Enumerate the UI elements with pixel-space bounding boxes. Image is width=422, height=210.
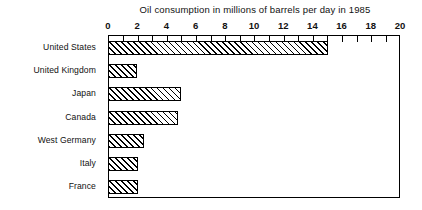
x-axis-tick-label: 0 xyxy=(105,20,110,31)
y-axis-category-label: United States xyxy=(43,42,96,52)
bar xyxy=(108,41,328,55)
bar xyxy=(108,64,137,78)
x-axis-tick-label: 8 xyxy=(222,20,227,31)
x-axis-tick-label: 14 xyxy=(307,20,318,31)
x-axis-tick-label: 4 xyxy=(164,20,169,31)
x-axis-tick-mark xyxy=(386,36,387,42)
x-axis-tick-label: 10 xyxy=(249,20,260,31)
y-axis-category-labels: United StatesUnited KingdomJapanCanadaWe… xyxy=(0,0,104,210)
bar xyxy=(108,134,144,148)
x-axis-tick-mark xyxy=(371,36,372,42)
x-axis-tick-mark xyxy=(357,36,358,42)
y-axis-category-label: United Kingdom xyxy=(33,65,96,75)
plot-area xyxy=(108,35,400,198)
bar xyxy=(108,157,138,171)
x-axis-tick-label: 16 xyxy=(336,20,347,31)
y-axis-category-label: France xyxy=(69,181,96,191)
x-axis-tick-label: 2 xyxy=(135,20,140,31)
bar xyxy=(108,111,178,125)
bar-chart: Oil consumption in millions of barrels p… xyxy=(0,0,422,210)
y-axis-category-label: Canada xyxy=(65,112,96,122)
x-axis-tick-label: 18 xyxy=(366,20,377,31)
bar xyxy=(108,180,138,194)
y-axis-category-label: Japan xyxy=(72,88,96,98)
x-axis-tick-mark xyxy=(342,36,343,42)
x-axis-tick-label: 20 xyxy=(395,20,406,31)
chart-title: Oil consumption in millions of barrels p… xyxy=(108,4,402,15)
y-axis-category-label: West Germany xyxy=(38,135,96,145)
y-axis-category-label: Italy xyxy=(80,158,96,168)
bar xyxy=(108,87,181,101)
x-axis-tick-label: 12 xyxy=(278,20,289,31)
x-axis-tick-label: 6 xyxy=(193,20,198,31)
